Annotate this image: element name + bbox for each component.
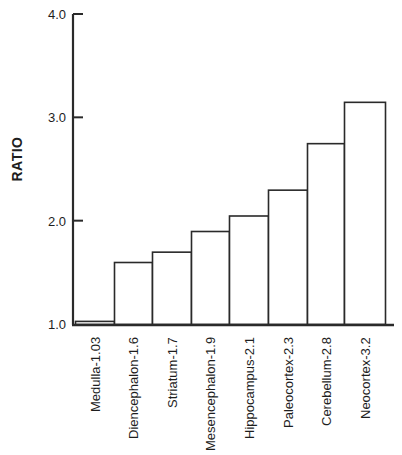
bar xyxy=(230,216,269,325)
bar xyxy=(345,102,386,324)
bar xyxy=(308,144,345,325)
bar xyxy=(192,232,230,325)
x-tick-label: Striatum-1.7 xyxy=(165,337,180,408)
bar xyxy=(269,190,308,324)
y-tick-label: 4.0 xyxy=(26,7,66,22)
bar xyxy=(115,263,153,325)
x-tick-label: Hippocampus-2.1 xyxy=(242,337,257,439)
x-tick-label: Mesencephalon-1.9 xyxy=(203,337,218,451)
y-tick-label: 2.0 xyxy=(26,213,66,228)
bar-chart: RATIO 1.02.03.04.0 Medulla-1.03Diencepha… xyxy=(0,0,402,455)
y-tick-label: 3.0 xyxy=(26,110,66,125)
x-tick-label: Cerebellum-2.8 xyxy=(319,337,334,426)
y-axis-label: RATIO xyxy=(9,136,25,181)
x-tick-label: Medulla-1.03 xyxy=(88,337,103,412)
x-tick-label: Neocortex-3.2 xyxy=(358,337,373,419)
y-tick-label: 1.0 xyxy=(26,317,66,332)
x-tick-label: Paleocortex-2.3 xyxy=(281,337,296,428)
bar xyxy=(153,252,192,324)
x-tick-label: Diencephalon-1.6 xyxy=(126,337,141,439)
